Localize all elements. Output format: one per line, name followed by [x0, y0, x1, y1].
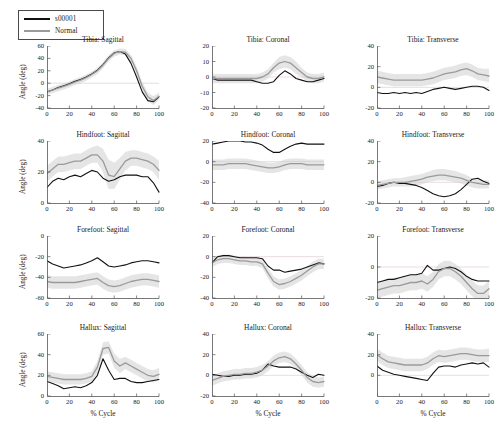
plot-box: [212, 141, 324, 203]
y-axis-label: Angle (deg): [19, 254, 27, 289]
x-tick-label: 80: [457, 300, 477, 307]
y-tick-label: 20: [358, 351, 374, 358]
x-tick-label: 40: [82, 398, 102, 405]
chart-title: Forefoot: Transverse: [377, 225, 489, 234]
x-tick-label: 80: [292, 398, 312, 405]
chart-title: Hallux: Transverse: [377, 323, 489, 332]
x-tick-label: 80: [457, 398, 477, 405]
normal-band-area: [377, 63, 489, 87]
normal-band-area: [47, 341, 159, 384]
plot-area: [377, 236, 490, 299]
legend-label-subject: s00001: [55, 15, 76, 23]
axis-spines: [48, 46, 160, 109]
plot-box: [377, 236, 489, 298]
x-tick-label: 20: [389, 110, 409, 117]
x-tick-label: 20: [224, 398, 244, 405]
y-tick-label: 0: [358, 263, 374, 270]
y-tick-label: 40: [28, 54, 44, 61]
chart-panel: Tibia: Transverse020406080100-2002040: [377, 35, 489, 125]
plot-box: [377, 141, 489, 203]
x-tick-label: 0: [367, 110, 387, 117]
x-tick-label: 0: [37, 398, 57, 405]
x-axis-label: % Cycle: [377, 409, 489, 418]
y-tick-label: -20: [193, 178, 209, 185]
subject-line: [47, 52, 159, 102]
y-tick-label: 40: [28, 351, 44, 358]
x-tick-label: 20: [59, 110, 79, 117]
subject-line: [212, 141, 324, 152]
chart-title: Hindfoot: Transverse: [377, 130, 489, 139]
subject-line: [47, 258, 159, 268]
chart-panel: Hallux: Coronal020406080100-2002040% Cyc…: [212, 323, 324, 413]
y-tick-label: -20: [358, 294, 374, 301]
plot-area: [47, 334, 160, 397]
y-tick-label: 40: [358, 137, 374, 144]
normal-band-area: [212, 352, 324, 388]
x-tick-label: 0: [202, 110, 222, 117]
y-tick-label: 0: [28, 232, 44, 239]
chart-title: Hallux: Coronal: [212, 323, 324, 332]
x-tick-label: 40: [82, 205, 102, 212]
y-tick-label: 20: [28, 168, 44, 175]
x-tick-label: 80: [127, 300, 147, 307]
y-tick-label: 40: [28, 137, 44, 144]
y-tick-label: -20: [28, 253, 44, 260]
chart-panel: Tibia: Sagittal020406080100-40-200204060…: [47, 35, 159, 125]
y-tick-label: 0: [358, 178, 374, 185]
y-tick-label: 0: [193, 158, 209, 165]
y-tick-label: -10: [193, 89, 209, 96]
y-tick-label: 40: [193, 330, 209, 337]
chart-panel: Hindfoot: Sagittal02040608010002040Angle…: [47, 130, 159, 220]
x-tick-label: 100: [479, 110, 499, 117]
x-tick-label: 20: [224, 205, 244, 212]
x-tick-label: 20: [59, 398, 79, 405]
y-tick-label: 0: [193, 253, 209, 260]
x-tick-label: 100: [149, 110, 169, 117]
x-tick-label: 60: [269, 205, 289, 212]
x-tick-label: 20: [59, 300, 79, 307]
subject-line: [47, 170, 159, 192]
plot-area: [47, 236, 160, 299]
chart-title: Tibia: Transverse: [377, 35, 489, 44]
y-tick-label: 20: [358, 63, 374, 70]
x-tick-label: 80: [127, 398, 147, 405]
plot-box: [377, 46, 489, 108]
plot-area: [47, 46, 160, 109]
chart-title: Hindfoot: Coronal: [212, 130, 324, 139]
x-tick-label: 60: [434, 300, 454, 307]
x-tick-label: 20: [59, 205, 79, 212]
plot-area: [377, 334, 490, 397]
x-tick-label: 20: [224, 110, 244, 117]
normal-band-area: [47, 49, 159, 105]
x-tick-label: 60: [434, 398, 454, 405]
chart-panel: Forefoot: Transverse020406080100-20020: [377, 225, 489, 315]
chart-panel: Hindfoot: Coronal020406080100-40-20020: [212, 130, 324, 220]
chart-title: Tibia: Sagittal: [47, 35, 159, 44]
x-tick-label: 100: [149, 398, 169, 405]
chart-panel: Hallux: Sagittal0204060801000204060Angle…: [47, 323, 159, 413]
plot-area: [212, 334, 325, 397]
x-tick-label: 100: [314, 205, 334, 212]
y-tick-label: 20: [28, 371, 44, 378]
y-tick-label: -20: [28, 92, 44, 99]
x-tick-label: 40: [412, 205, 432, 212]
x-tick-label: 100: [314, 300, 334, 307]
x-tick-label: 100: [314, 110, 334, 117]
x-tick-label: 60: [104, 398, 124, 405]
y-tick-label: 40: [358, 330, 374, 337]
chart-title: Forefoot: Sagittal: [47, 225, 159, 234]
x-tick-label: 60: [104, 205, 124, 212]
y-tick-label: -20: [358, 104, 374, 111]
chart-title: Tibia: Coronal: [212, 35, 324, 44]
x-tick-label: 40: [247, 398, 267, 405]
x-tick-label: 40: [412, 300, 432, 307]
legend-swatch-subject: [24, 18, 50, 20]
y-tick-label: 20: [358, 158, 374, 165]
y-tick-label: -40: [28, 104, 44, 111]
x-tick-label: 0: [202, 205, 222, 212]
x-tick-label: 60: [104, 300, 124, 307]
x-tick-label: 60: [104, 110, 124, 117]
x-tick-label: 20: [389, 300, 409, 307]
x-tick-label: 40: [412, 110, 432, 117]
